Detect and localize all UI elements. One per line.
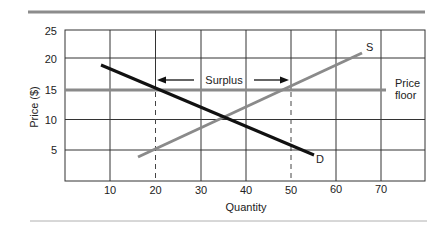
x-tick: 50 <box>285 184 297 196</box>
y-tick: 10 <box>45 114 57 126</box>
y-tick: 20 <box>45 53 57 65</box>
arrow-left-icon <box>157 77 166 84</box>
supply-curve <box>138 53 362 157</box>
y-tick: 5 <box>51 144 57 156</box>
y-tick: 15 <box>45 84 57 96</box>
x-tick: 30 <box>195 184 207 196</box>
y-tick-labels: 5 10 15 20 25 <box>45 25 57 156</box>
x-tick: 70 <box>375 183 387 195</box>
x-tick: 40 <box>240 184 252 196</box>
x-tick: 60 <box>330 183 342 195</box>
y-tick: 25 <box>45 25 57 37</box>
x-tick: 20 <box>149 184 161 196</box>
price-floor-label-line2: floor <box>395 89 417 101</box>
x-tick-labels: 10 20 30 40 50 60 70 <box>104 183 387 196</box>
y-axis-title: Price ($) <box>28 86 40 128</box>
x-axis-title: Quantity <box>226 201 267 213</box>
surplus-label: Surplus <box>205 74 243 86</box>
x-tick: 10 <box>104 184 116 196</box>
price-floor-label-line1: Price <box>395 77 420 89</box>
demand-label: D <box>316 153 324 165</box>
supply-label: S <box>366 41 373 53</box>
supply-demand-chart: Surplus S D Price floor 5 10 15 20 25 10… <box>0 0 446 226</box>
arrow-right-icon <box>280 77 289 84</box>
plot-area: Surplus S D Price floor <box>65 30 425 181</box>
surplus-arrow: Surplus <box>157 74 289 86</box>
